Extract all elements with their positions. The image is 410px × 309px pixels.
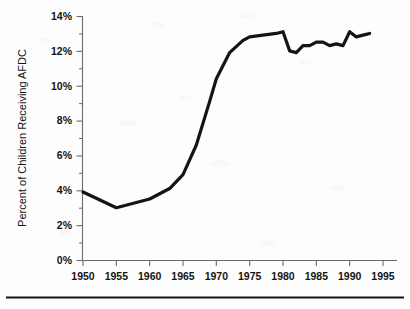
figure-container: 0%2%4%6%8%10%12%14% 19501955196019651970… <box>0 0 410 309</box>
x-tick-label: 1955 <box>105 270 129 282</box>
series-line-afdc <box>83 32 370 208</box>
x-tick-label: 1990 <box>338 270 362 282</box>
x-tick-label: 1965 <box>171 270 195 282</box>
year-axis: 1950195519601965197019751980198519901995 <box>71 261 397 283</box>
y-tick-label: 12% <box>51 45 73 57</box>
percent-axis: 0%2%4%6%8%10%12%14% <box>51 10 83 266</box>
x-axis-major-ticks <box>83 261 383 267</box>
x-axis-tick-labels: 1950195519601965197019751980198519901995 <box>71 270 395 282</box>
x-tick-label: 1975 <box>238 270 262 282</box>
y-tick-label: 2% <box>57 219 73 231</box>
y-tick-label: 4% <box>57 184 73 196</box>
y-tick-label: 6% <box>57 149 73 161</box>
y-tick-label: 0% <box>57 254 73 266</box>
x-tick-label: 1980 <box>271 270 295 282</box>
x-tick-label: 1950 <box>71 270 95 282</box>
afdc-line-chart: 0%2%4%6%8%10%12%14% 19501955196019651970… <box>0 0 410 309</box>
x-tick-label: 1970 <box>205 270 229 282</box>
y-tick-label: 14% <box>51 10 73 22</box>
x-tick-label: 1960 <box>138 270 162 282</box>
y-tick-label: 8% <box>57 114 73 126</box>
y-tick-label: 10% <box>51 80 73 92</box>
x-tick-label: 1985 <box>305 270 329 282</box>
data-series-group <box>83 32 370 208</box>
y-axis-title: Percent of Children Receiving AFDC <box>16 49 28 227</box>
x-tick-label: 1995 <box>371 270 395 282</box>
y-axis-tick-labels: 0%2%4%6%8%10%12%14% <box>51 10 73 266</box>
